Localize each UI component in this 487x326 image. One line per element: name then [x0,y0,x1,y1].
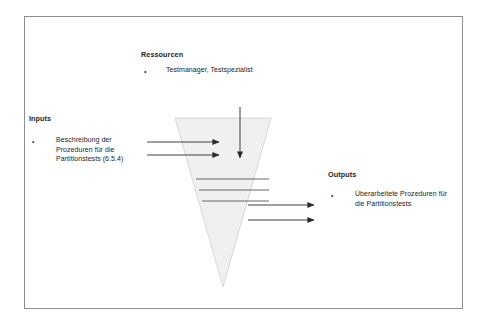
resources-bullet-icon: • [144,68,146,75]
funnel-triangle-shape [175,118,271,287]
resources-heading: Ressourcen [141,50,183,59]
output-arrows [248,205,314,220]
outputs-item-text: Überarbeitete Prozeduren für die Partiti… [355,189,447,208]
inputs-item-text: Beschreibung der Prozeduren für die Part… [56,135,123,164]
inputs-bullet-icon: • [32,138,34,145]
resources-item-text: Testmanager, Testspezialist [166,65,253,75]
diagram-canvas: Ressourcen • Testmanager, Testspezialist… [0,0,487,326]
outputs-heading: Outputs [328,170,356,179]
outputs-bullet-icon: • [331,192,333,199]
inputs-heading: Inputs [29,114,51,123]
